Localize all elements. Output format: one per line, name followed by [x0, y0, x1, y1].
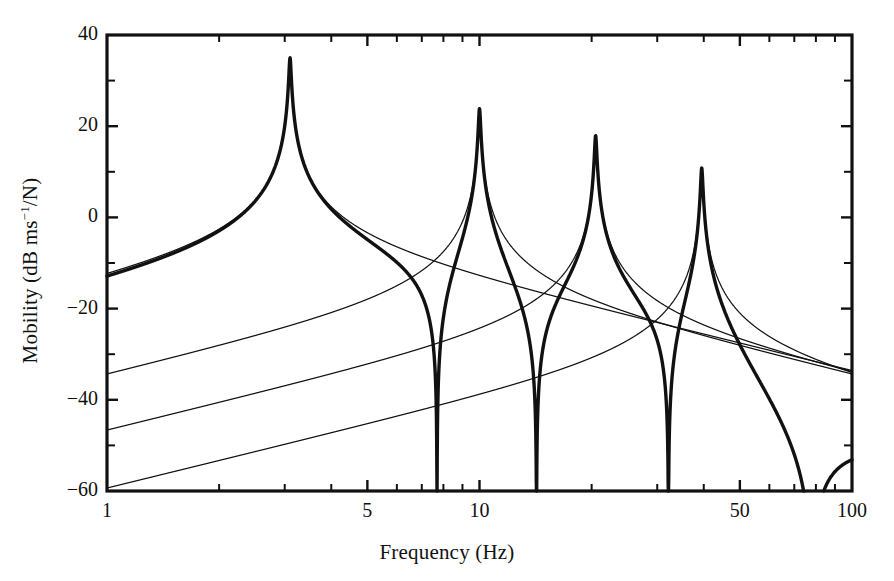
y-axis-title-wrapper: Mobility (dB ms−1/N) [0, 0, 60, 581]
x-axis-title: Frequency (Hz) [0, 540, 894, 565]
y-axis-title-suffix: /N) [18, 178, 42, 207]
plot-frame [107, 35, 852, 491]
x-tick-label: 100 [812, 499, 892, 522]
x-tick-label: 1 [67, 499, 147, 522]
y-axis-title-prefix: Mobility (dB ms [18, 220, 42, 363]
plot-canvas [0, 0, 894, 581]
x-tick-label: 10 [440, 499, 520, 522]
mobility-frequency-chart: −60−40−2002040 151050100 Mobility (dB ms… [0, 0, 894, 581]
y-axis-title-exponent: −1 [17, 206, 32, 220]
y-axis-title: Mobility (dB ms−1/N) [18, 41, 43, 501]
x-tick-label: 5 [327, 499, 407, 522]
x-tick-label: 50 [700, 499, 780, 522]
